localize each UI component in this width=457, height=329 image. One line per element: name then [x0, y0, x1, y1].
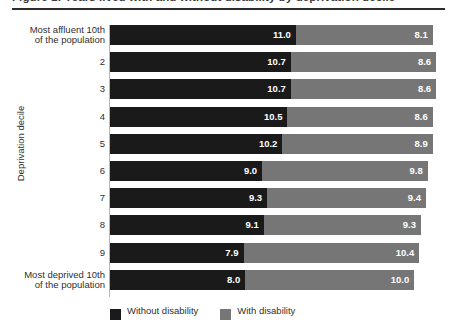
legend-swatch-icon	[220, 309, 231, 320]
bar-value-label: 10.7	[267, 56, 286, 68]
row-label-line: of the population	[0, 35, 105, 45]
bar-value-label: 8.1	[415, 29, 428, 41]
bar-segment-without-disability: 8.0	[110, 270, 245, 290]
bar-row: 69.09.8	[0, 161, 457, 181]
row-label-line: 3	[0, 84, 105, 95]
row-label-line: 2	[0, 57, 105, 68]
bar-row: Most deprived 10thof the population8.010…	[0, 270, 457, 290]
bar-value-label: 10.2	[259, 138, 278, 150]
bar-value-label: 9.3	[249, 192, 262, 204]
bar-segment-without-disability: 10.7	[110, 79, 291, 99]
bar-segment-with-disability: 8.1	[296, 25, 433, 45]
row-label: 2	[0, 57, 105, 68]
bar-value-label: 8.9	[415, 138, 428, 150]
bar-segment-without-disability: 10.2	[110, 134, 282, 154]
row-label-line: 7	[0, 193, 105, 204]
legend-label: With disability	[237, 305, 295, 316]
stacked-bar: 7.910.4	[110, 243, 419, 263]
figure-title-strip: Figure 1: Years lived with and without d…	[0, 0, 457, 7]
stacked-bar: 8.010.0	[110, 270, 414, 290]
bar-value-label: 10.4	[396, 247, 415, 259]
legend-item[interactable]: Without disability	[110, 305, 198, 323]
bar-value-label: 8.0	[227, 274, 240, 286]
row-label: 4	[0, 112, 105, 123]
bar-value-label: 10.5	[264, 111, 283, 123]
bar-value-label: 8.6	[418, 56, 431, 68]
bar-segment-with-disability: 8.6	[291, 79, 436, 99]
bar-segment-without-disability: 9.1	[110, 215, 264, 235]
bar-row: 410.58.6	[0, 107, 457, 127]
figure-title: Figure 1: Years lived with and without d…	[12, 0, 395, 3]
row-label: 9	[0, 248, 105, 259]
row-label-line: 8	[0, 220, 105, 231]
row-label-line: 4	[0, 112, 105, 123]
stacked-bar: 10.28.9	[110, 134, 433, 154]
bar-value-label: 8.6	[418, 83, 431, 95]
bar-row: 97.910.4	[0, 243, 457, 263]
row-label-line: 9	[0, 248, 105, 259]
bar-value-label: 9.8	[409, 165, 422, 177]
stacked-bar: 9.19.3	[110, 215, 421, 235]
row-label: 7	[0, 193, 105, 204]
bar-segment-without-disability: 9.3	[110, 188, 267, 208]
bar-segment-with-disability: 9.4	[267, 188, 426, 208]
bar-segment-without-disability: 11.0	[110, 25, 296, 45]
row-label: 3	[0, 84, 105, 95]
bar-value-label: 10.7	[267, 83, 286, 95]
stacked-bar: 10.78.6	[110, 52, 436, 72]
bar-segment-with-disability: 9.3	[264, 215, 421, 235]
bar-row: 210.78.6	[0, 52, 457, 72]
stacked-bar: 11.08.1	[110, 25, 433, 45]
bar-value-label: 9.4	[408, 192, 421, 204]
legend-label: Without disability	[127, 305, 198, 316]
bar-segment-without-disability: 7.9	[110, 243, 244, 263]
bar-value-label: 9.3	[403, 219, 416, 231]
bar-value-label: 9.0	[244, 165, 257, 177]
title-divider	[12, 8, 445, 10]
row-label-line: 6	[0, 166, 105, 177]
bar-row: 89.19.3	[0, 215, 457, 235]
row-label: 6	[0, 166, 105, 177]
bar-segment-with-disability: 8.6	[287, 107, 432, 127]
bar-row: Most affluent 10thof the population11.08…	[0, 25, 457, 45]
bar-segment-with-disability: 10.4	[244, 243, 420, 263]
stacked-bar: 10.58.6	[110, 107, 433, 127]
bar-segment-without-disability: 10.7	[110, 52, 291, 72]
row-label: 8	[0, 220, 105, 231]
row-label-line: 5	[0, 139, 105, 150]
bar-value-label: 11.0	[273, 29, 291, 41]
bar-segment-with-disability: 9.8	[262, 161, 428, 181]
chart-legend: Without disabilityWith disability	[110, 305, 317, 319]
bar-row: 510.28.9	[0, 134, 457, 154]
bar-segment-without-disability: 9.0	[110, 161, 262, 181]
bar-segment-without-disability: 10.5	[110, 107, 287, 127]
bar-segment-with-disability: 8.9	[282, 134, 432, 154]
bar-segment-with-disability: 8.6	[291, 52, 436, 72]
bar-value-label: 8.6	[415, 111, 428, 123]
legend-item[interactable]: With disability	[220, 305, 295, 323]
row-label-line: of the population	[0, 280, 105, 290]
bar-value-label: 10.0	[391, 274, 410, 286]
stacked-bar: 10.78.6	[110, 79, 436, 99]
chart-plot-area: Deprivation decile Most affluent 10thof …	[0, 22, 457, 298]
row-label: Most deprived 10thof the population	[0, 270, 105, 290]
legend-swatch-icon	[110, 309, 121, 320]
bar-row: 310.78.6	[0, 79, 457, 99]
stacked-bar: 9.39.4	[110, 188, 426, 208]
bar-row: 79.39.4	[0, 188, 457, 208]
bar-value-label: 7.9	[225, 247, 238, 259]
bar-value-label: 9.1	[246, 219, 259, 231]
stacked-bar: 9.09.8	[110, 161, 428, 181]
bar-segment-with-disability: 10.0	[245, 270, 414, 290]
row-label: Most affluent 10thof the population	[0, 25, 105, 45]
row-label: 5	[0, 139, 105, 150]
